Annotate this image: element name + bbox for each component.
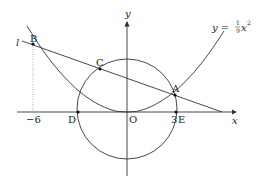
label-O: O [129,114,137,125]
axis-x-label: x [232,115,238,126]
svg-text:2: 2 [247,19,251,26]
curve-equation: y = 1 9 x 2 [211,19,251,34]
label-B: B [30,33,37,44]
tick-neg6: −6 [26,114,41,125]
svg-text:9: 9 [236,27,240,34]
line-l [22,41,222,112]
axis-y-label: y [124,8,131,19]
tick-3: 3 [171,114,177,125]
coordinate-diagram: B C A D E O −6 3 l x y y = 1 9 x 2 [0,0,258,185]
point-D [76,110,79,113]
label-l: l [16,37,19,48]
label-A: A [171,83,180,94]
parabola [27,26,224,112]
label-E: E [178,114,185,125]
label-D: D [68,114,76,125]
label-C: C [96,57,104,68]
svg-text:y =: y = [211,22,229,33]
svg-text:1: 1 [236,19,240,26]
